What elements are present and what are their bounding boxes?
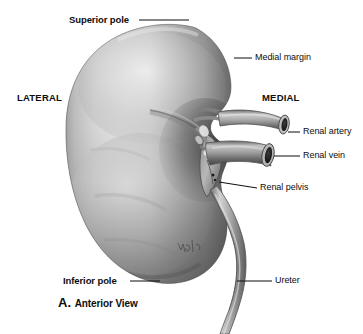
kidney-anatomy-figure: Superior pole Medial margin LATERAL MEDI…: [0, 0, 363, 334]
figure-caption: A. Anterior View: [58, 294, 138, 310]
label-medial-margin: Medial margin: [255, 53, 311, 62]
label-medial: MEDIAL: [262, 93, 300, 103]
kidney-body: [0, 0, 363, 334]
caption-text: Anterior View: [75, 298, 138, 309]
label-superior-pole: Superior pole: [69, 15, 129, 25]
label-inferior-pole: Inferior pole: [63, 276, 117, 286]
kidney-illustration: [0, 0, 363, 334]
renal-vein-vessel: [206, 141, 276, 167]
label-renal-artery: Renal artery: [303, 127, 351, 136]
leader-renal-pelvis: [219, 182, 257, 188]
caption-letter: A.: [58, 295, 75, 310]
label-renal-pelvis: Renal pelvis: [260, 183, 308, 192]
label-ureter: Ureter: [275, 276, 300, 285]
label-lateral: LATERAL: [17, 93, 62, 103]
label-renal-vein: Renal vein: [303, 151, 345, 160]
